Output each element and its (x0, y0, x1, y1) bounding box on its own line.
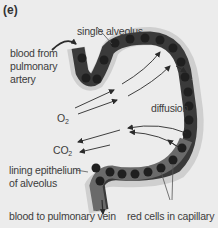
label-diffusion: diffusion (151, 102, 188, 114)
label-single-alveolus: single alveolus (77, 25, 143, 37)
label-blood-from-3: artery (10, 73, 36, 85)
alveolus-diagram: (e) single alveolus blood from pulmonary… (0, 0, 218, 228)
label-o2: O2 (57, 112, 69, 128)
label-blood-to: blood to pulmonary vein (9, 210, 116, 222)
label-blood-from-2: pulmonary (10, 60, 57, 72)
label-lining-1: lining epithelium (9, 164, 81, 176)
panel-label: (e) (3, 3, 18, 17)
co2-arrows (78, 126, 186, 152)
label-blood-from-1: blood from (10, 47, 58, 59)
label-lining-2: of alveolus (9, 177, 57, 189)
label-red-cells: red cells in capillary (127, 210, 214, 222)
label-co2: CO2 (53, 144, 72, 160)
